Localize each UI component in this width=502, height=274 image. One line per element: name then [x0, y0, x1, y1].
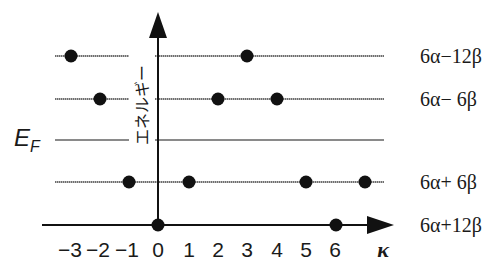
kappa-axis-arrowhead [367, 216, 394, 234]
tick-label: 4 [271, 238, 283, 261]
energy-label: 6α−12β [420, 45, 482, 68]
state-dot [212, 93, 225, 106]
tick-label: −1 [115, 238, 139, 261]
state-dot [183, 176, 196, 189]
energy-level-diagram: 6α−12β 6α− 6β EF 6α+ 6β エネルギー [0, 0, 502, 274]
kappa-tick-labels: −3 −2 −1 0 1 2 3 4 5 6 κ [58, 237, 390, 262]
kappa-axis: 6α+12β [42, 214, 482, 237]
tick-label: 5 [300, 238, 312, 261]
tick-label: 6 [329, 238, 341, 261]
tick-label: 2 [212, 238, 224, 261]
energy-axis-label: エネルギー [133, 65, 152, 145]
state-dot [271, 93, 284, 106]
tick-label: 0 [152, 238, 164, 261]
energy-level-4: 6α+ 6β [55, 171, 477, 194]
energy-axis: エネルギー [133, 12, 167, 225]
energy-label: 6α+ 6β [420, 171, 477, 194]
state-dot [300, 176, 313, 189]
tick-label: 1 [183, 238, 195, 261]
state-dot [330, 219, 343, 232]
fermi-label-sub: F [30, 138, 41, 155]
tick-label: 3 [241, 238, 253, 261]
tick-label: −2 [86, 238, 110, 261]
fermi-label: EF [14, 124, 41, 155]
energy-level-1: 6α−12β [55, 45, 482, 68]
state-dot [359, 176, 372, 189]
state-dot [241, 50, 254, 63]
energy-label: 6α− 6β [420, 88, 477, 111]
state-dot [65, 50, 78, 63]
state-dot [94, 93, 107, 106]
kappa-axis-label: κ [377, 237, 390, 262]
energy-level-2: 6α− 6β [55, 88, 477, 111]
fermi-label-main: E [14, 124, 31, 151]
energy-label: 6α+12β [420, 214, 482, 237]
state-dot [152, 219, 165, 232]
fermi-level: EF [14, 124, 384, 155]
tick-label: −3 [58, 238, 82, 261]
state-dot [123, 176, 136, 189]
energy-axis-arrowhead [149, 12, 167, 38]
